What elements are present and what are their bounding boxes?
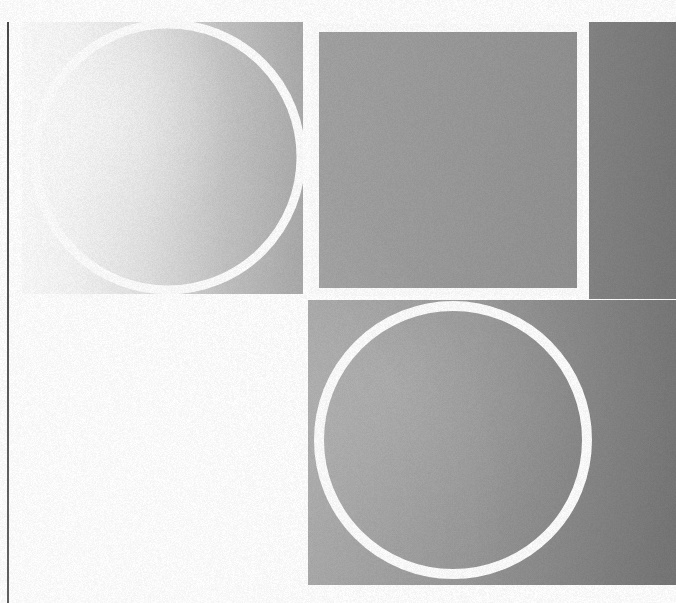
artwork-canvas (0, 0, 676, 603)
vertical-rule (7, 22, 9, 603)
bottom-margin (0, 585, 676, 603)
lower-left-white-field (0, 299, 308, 603)
band-seam (0, 294, 310, 304)
composition-artboard (0, 0, 676, 603)
square-body (311, 24, 585, 296)
upper-right-dark-strip (589, 22, 676, 299)
